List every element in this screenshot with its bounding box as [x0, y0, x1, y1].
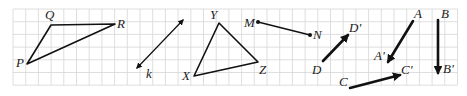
- vertex-label-q: Q: [45, 7, 55, 22]
- point-label-c-prime: C': [401, 62, 413, 77]
- line-label-k: k: [146, 66, 152, 81]
- endpoint-dot: [308, 33, 312, 37]
- vertex-label-x: X: [181, 68, 191, 83]
- point-label-m: M: [243, 15, 256, 30]
- point-label-c: C: [339, 74, 348, 89]
- point-label-d-prime: D': [348, 20, 361, 35]
- segment-mn: [258, 22, 310, 35]
- background-grid: [13, 9, 458, 85]
- vector-ccprime: [350, 75, 400, 88]
- line-k: [137, 20, 183, 68]
- point-label-n: N: [312, 27, 323, 42]
- point-labels: PQRXYZkMNDD'AA'CC'BB': [15, 6, 454, 89]
- endpoint-dot: [256, 20, 260, 24]
- vector-aaprime: [388, 21, 413, 62]
- point-label-b: B: [441, 6, 449, 21]
- vertex-label-p: P: [15, 55, 24, 70]
- vertex-label-z: Z: [259, 62, 267, 77]
- geometry-diagram: PQRXYZkMNDD'AA'CC'BB': [0, 0, 467, 96]
- vertex-label-r: R: [116, 16, 125, 31]
- point-label-b-prime: B': [443, 61, 454, 76]
- vector-ddprime: [323, 35, 348, 61]
- point-label-d: D: [311, 62, 322, 77]
- point-label-a: A: [413, 6, 422, 21]
- point-label-a-prime: A': [373, 48, 385, 63]
